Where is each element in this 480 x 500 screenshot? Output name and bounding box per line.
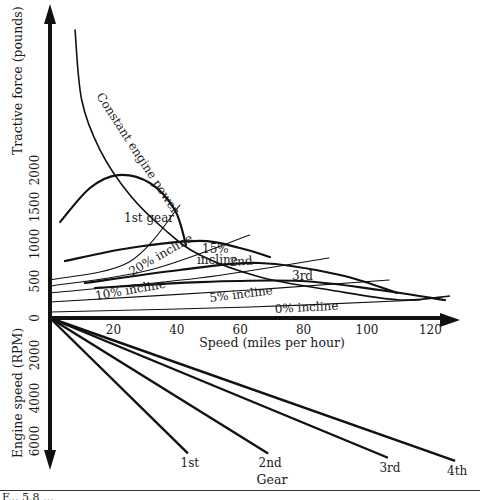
x-tick-120: 120	[419, 323, 442, 337]
label-15pct-suffix: incline	[197, 253, 238, 267]
y-tick-labels: 0500100015002000	[28, 155, 42, 322]
rpm-axis-title: Engine speed (RPM)	[10, 328, 25, 458]
gear-label-4th: 4th	[447, 464, 467, 478]
y-tick-1000: 1000	[28, 229, 42, 260]
gear-label-1st: 1st	[181, 456, 200, 470]
y-tick-2000: 2000	[28, 155, 42, 186]
y-tick-0: 0	[28, 314, 42, 322]
y-tick-1500: 1500	[28, 192, 42, 223]
rpm-tick-2000: 2000	[28, 340, 42, 371]
x-tick-100: 100	[356, 323, 379, 337]
rpm-tick-6000: 6000	[28, 426, 42, 457]
label-5pct-incline: 5% incline	[209, 283, 274, 305]
label-0pct-incline: 0% incline	[274, 299, 338, 316]
gear-axis-title: Gear	[257, 472, 288, 487]
x-tick-20: 20	[106, 323, 121, 337]
gear-label-2nd: 2nd	[259, 456, 282, 470]
curve-constant-engine-power	[75, 30, 449, 300]
label-1st-gear: 1st gear	[124, 211, 174, 225]
x-axis-title: Speed (miles per hour)	[199, 335, 345, 350]
figure-caption-clipped: F... 5.8 ...	[0, 490, 480, 500]
gear-labels: 1st2nd3rd4th	[181, 456, 468, 478]
y-axis-up-arrow	[44, 4, 56, 24]
x-axis-right-arrow	[440, 313, 460, 327]
y-tick-500: 500	[28, 270, 42, 293]
axes	[44, 4, 460, 470]
curves	[50, 30, 449, 312]
rpm-tick-labels: 200040006000	[28, 340, 42, 457]
x-tick-40: 40	[169, 323, 184, 337]
rpm-tick-4000: 4000	[28, 383, 42, 414]
label-3rd-gear: 3rd	[292, 269, 313, 283]
y-axis-title: Tractive force (pounds)	[10, 6, 25, 155]
y-axis-down-arrow	[44, 450, 56, 470]
gear-label-3rd: 3rd	[379, 461, 400, 475]
gear-line-1st	[50, 318, 188, 453]
label-constant-power: Constant engine power	[93, 90, 182, 217]
